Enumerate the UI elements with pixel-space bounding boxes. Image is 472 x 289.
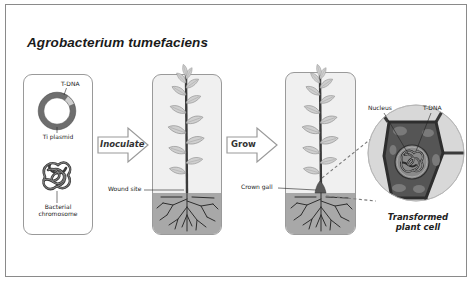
ti-plasmid-label: Ti plasmid	[30, 134, 86, 141]
inoculate-label: Inoculate	[100, 139, 145, 149]
transformed-cell-icon	[368, 105, 470, 208]
crown-gall-plant-icon	[291, 64, 352, 231]
crown-gall-label: Crown gall	[241, 184, 273, 191]
bacterial-chromosome-label-line2: chromosome	[30, 211, 86, 218]
wound-site-label: Wound site	[108, 186, 141, 193]
bacterial-chromosome-icon	[44, 163, 71, 189]
tdna-label: T-DNA	[61, 81, 80, 88]
grow-label: Grow	[231, 139, 256, 149]
inoculated-plant-icon	[157, 64, 218, 231]
cell-tdna-label: T-DNA	[423, 105, 442, 112]
ti-plasmid-icon	[38, 88, 76, 133]
nucleus-label: Nucleus	[368, 105, 392, 112]
transformed-plant-cell-caption-line2: plant cell	[378, 223, 458, 233]
